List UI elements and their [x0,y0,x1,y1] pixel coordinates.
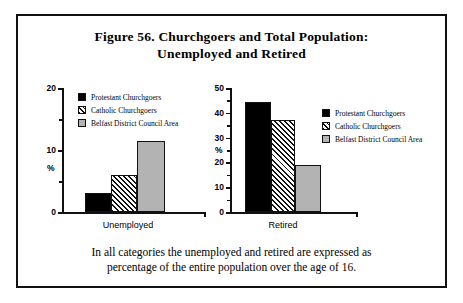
legend-swatch-belfast-icon [78,119,86,127]
legend-item-catholic: Catholic Churchgoers [322,121,422,131]
y-axis-percent-label-left: % [47,164,55,173]
y-axis-percent-label-right: % [215,146,223,155]
legend-item-protestant: Protestant Churchgoers [322,108,422,118]
y-tick-minor-25-right [227,150,231,152]
y-tick-minor-35-right [227,125,231,127]
y-tick-major-0-right [226,212,231,214]
bar-protestant-unemployed [85,193,111,212]
legend-swatch-protestant-icon [322,109,330,117]
y-tick-major-50-right [226,88,231,90]
y-tick-major-20-left [58,88,63,90]
legend-item-catholic: Catholic Churchgoers [78,105,178,115]
y-tick-label-30-right: 30 [200,134,224,143]
title-line-2: Unemployed and Retired [18,45,445,62]
legend-label-protestant: Protestant Churchgoers [335,109,405,118]
legend-item-belfast: Belfast District Council Area [322,134,422,144]
bar-catholic-retired [271,120,295,212]
chart-unemployed: 20 10 0 % Unemployed Protestant Churchgo… [32,84,212,244]
y-tick-minor-15-left [59,119,63,121]
y-tick-minor-15-right [227,175,231,177]
chart-retired: 50 40 30 20 10 0 % Retired Protestant Ch… [200,84,440,244]
legend-label-protestant: Protestant Churchgoers [91,93,161,102]
x-tick-label-unemployed: Unemployed [78,220,178,230]
legend-swatch-catholic-icon [78,106,86,114]
figure-caption: In all categories the unemployed and ret… [32,245,431,274]
legend-swatch-belfast-icon [322,135,330,143]
y-tick-major-20-right [226,162,231,164]
y-tick-minor-45-right [227,100,231,102]
caption-line-1: In all categories the unemployed and ret… [32,245,431,260]
legend-label-belfast: Belfast District Council Area [335,135,422,144]
y-tick-label-10-right: 10 [200,183,224,192]
y-tick-label-40-right: 40 [200,109,224,118]
x-tick-label-retired: Retired [233,220,333,230]
bar-protestant-retired [245,102,271,212]
y-tick-label-20-left: 20 [32,84,56,93]
title-line-1: Figure 56. Churchgoers and Total Populat… [18,28,445,45]
x-axis-line-left [62,212,206,214]
y-tick-major-30-right [226,138,231,140]
x-axis-end-tick-right [356,212,358,217]
caption-line-2: percentage of the entire population over… [32,260,431,275]
legend-label-catholic: Catholic Churchgoers [91,106,157,115]
y-tick-major-10-right [226,187,231,189]
y-tick-major-40-right [226,113,231,115]
y-tick-label-10-left: 10 [32,146,56,155]
y-tick-minor-5-left [59,181,63,183]
y-tick-major-10-left [58,150,63,152]
figure-frame: Figure 56. Churchgoers and Total Populat… [16,14,447,288]
bar-catholic-unemployed [111,175,137,212]
y-tick-label-50-right: 50 [200,84,224,93]
x-axis-line-right [230,212,358,214]
bar-belfast-unemployed [137,141,165,212]
legend-item-belfast: Belfast District Council Area [78,118,178,128]
y-tick-major-0-left [58,212,63,214]
legend-unemployed: Protestant Churchgoers Catholic Churchgo… [78,92,178,131]
legend-item-protestant: Protestant Churchgoers [78,92,178,102]
y-tick-label-0-left: 0 [32,208,56,217]
legend-label-belfast: Belfast District Council Area [91,119,178,128]
y-tick-minor-5-right [227,200,231,202]
legend-swatch-protestant-icon [78,93,86,101]
bar-belfast-retired [295,165,321,212]
y-tick-label-20-right: 20 [200,158,224,167]
legend-retired: Protestant Churchgoers Catholic Churchgo… [322,108,422,147]
legend-swatch-catholic-icon [322,122,330,130]
y-tick-label-0-right: 0 [200,208,224,217]
page-title: Figure 56. Churchgoers and Total Populat… [18,28,445,62]
legend-label-catholic: Catholic Churchgoers [335,122,401,131]
